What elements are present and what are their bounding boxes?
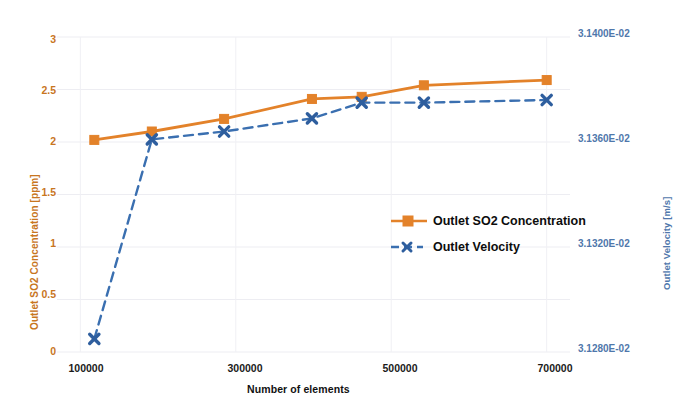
data-point-marker xyxy=(419,81,428,90)
data-point-marker xyxy=(90,135,99,144)
legend-label-velocity: Outlet Velocity xyxy=(433,240,520,254)
data-point-marker xyxy=(220,114,229,123)
legend-item-so2[interactable]: Outlet SO2 Concentration xyxy=(390,208,586,234)
plot-area xyxy=(0,0,674,407)
data-point-marker xyxy=(307,94,316,103)
series-so2-concentration xyxy=(90,76,551,145)
gridlines xyxy=(57,37,570,352)
legend-label-so2: Outlet SO2 Concentration xyxy=(433,214,586,228)
data-point-marker xyxy=(542,76,551,85)
chart-legend: Outlet SO2 Concentration Outlet Velocity xyxy=(390,208,586,260)
legend-swatch-x-icon xyxy=(390,240,428,254)
legend-swatch-square-icon xyxy=(390,214,428,228)
chart-figure: Outlet SO2 Concentration [ppm] Outlet Ve… xyxy=(0,0,674,407)
legend-item-velocity[interactable]: Outlet Velocity xyxy=(390,234,586,260)
